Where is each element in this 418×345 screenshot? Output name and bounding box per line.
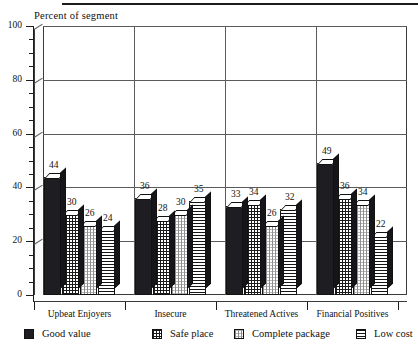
x-tick xyxy=(398,302,399,310)
y-tick-minor xyxy=(29,255,33,256)
y-axis-tick-label: 80 xyxy=(0,74,22,84)
x-axis-category-label: Insecure xyxy=(154,309,186,319)
y-tick-minor xyxy=(29,147,33,148)
bar-value-label: 36 xyxy=(340,181,350,191)
bar-value-label: 24 xyxy=(103,213,113,223)
bar-side-face xyxy=(60,167,66,289)
bar-side-face xyxy=(187,205,193,289)
bar-side-face xyxy=(151,189,157,289)
bar xyxy=(135,198,152,295)
bar-value-label: 44 xyxy=(49,160,59,170)
y-tick-major xyxy=(26,26,33,27)
y-tick-minor xyxy=(29,228,33,229)
bar-side-face xyxy=(169,210,175,289)
y-axis-tick-label: 0 xyxy=(0,289,22,299)
y-tick-minor xyxy=(29,161,33,162)
bar-side-face xyxy=(369,194,375,289)
bar-value-label: 28 xyxy=(158,203,168,213)
bar xyxy=(44,177,61,295)
y-tick-major xyxy=(26,241,33,242)
bar-value-label: 34 xyxy=(249,187,259,197)
legend-item[interactable]: Good value xyxy=(24,328,91,339)
legend-item[interactable]: Safe place xyxy=(152,328,213,339)
x-axis-category-label: Financial Positives xyxy=(316,309,388,319)
legend-label: Good value xyxy=(42,328,91,339)
legend-label: Complete package xyxy=(252,328,330,339)
bar-side-face xyxy=(205,191,211,289)
chart-figure: Percent of segment 020406080100 Upbeat E… xyxy=(0,0,418,345)
bar-value-label: 30 xyxy=(67,197,77,207)
bar-side-face xyxy=(333,154,339,289)
y-tick-minor xyxy=(29,53,33,54)
bar-side-face xyxy=(296,200,302,289)
y-axis-tick-label: 20 xyxy=(0,235,22,245)
y-axis-line xyxy=(33,26,34,302)
bar-value-label: 22 xyxy=(376,219,386,229)
legend-swatch-icon xyxy=(234,329,244,339)
legend-item[interactable]: Complete package xyxy=(234,328,330,339)
top-rule xyxy=(62,3,418,5)
y-tick-minor xyxy=(29,39,33,40)
y-tick-minor xyxy=(29,66,33,67)
bar-value-label: 35 xyxy=(194,184,204,194)
bar-side-face xyxy=(260,194,266,289)
legend-swatch-icon xyxy=(356,329,366,339)
plot-floor xyxy=(34,295,407,302)
bar-value-label: 30 xyxy=(176,197,186,207)
y-tick-major xyxy=(26,295,33,296)
y-tick-major xyxy=(26,134,33,135)
y-tick-minor xyxy=(29,174,33,175)
bar-value-label: 34 xyxy=(358,187,368,197)
legend-label: Safe place xyxy=(170,328,213,339)
legend-swatch-icon xyxy=(24,329,34,339)
x-tick xyxy=(34,302,35,310)
x-tick xyxy=(125,302,126,310)
bar-side-face xyxy=(96,216,102,289)
y-tick-minor xyxy=(29,201,33,202)
y-tick-minor xyxy=(29,268,33,269)
y-tick-major xyxy=(26,187,33,188)
legend-swatch-icon xyxy=(152,329,162,339)
y-axis-tick-label: 40 xyxy=(0,181,22,191)
y-axis-title: Percent of segment xyxy=(34,10,118,21)
y-tick-minor xyxy=(29,93,33,94)
x-axis-category-label: Upbeat Enjoyers xyxy=(48,309,112,319)
bar-value-label: 26 xyxy=(267,208,277,218)
y-axis-tick-label: 60 xyxy=(0,128,22,138)
x-axis-category-label: Threatened Actives xyxy=(225,309,299,319)
bar-value-label: 36 xyxy=(140,181,150,191)
bar xyxy=(317,163,334,295)
bar-side-face xyxy=(78,205,84,289)
bar-side-face xyxy=(351,189,357,289)
legend-label: Low cost xyxy=(374,328,413,339)
bar xyxy=(226,206,243,295)
y-tick-major xyxy=(26,80,33,81)
chart-legend: Good valueSafe placeComplete packageLow … xyxy=(0,326,418,345)
bar-value-label: 33 xyxy=(231,189,241,199)
bar-side-face xyxy=(278,216,284,289)
y-tick-minor xyxy=(29,120,33,121)
legend-item[interactable]: Low cost xyxy=(356,328,413,339)
bar-side-face xyxy=(242,197,248,289)
y-tick-minor xyxy=(29,107,33,108)
y-axis-tick-label: 100 xyxy=(0,20,22,30)
bar-side-face xyxy=(387,226,393,289)
x-tick xyxy=(307,302,308,310)
bar-side-face xyxy=(114,221,120,289)
bar-value-label: 26 xyxy=(85,208,95,218)
y-tick-minor xyxy=(29,282,33,283)
bar-value-label: 32 xyxy=(285,192,295,202)
x-tick xyxy=(216,302,217,310)
plot-left-wall xyxy=(34,32,43,301)
y-tick-minor xyxy=(29,214,33,215)
bar-value-label: 49 xyxy=(322,146,332,156)
